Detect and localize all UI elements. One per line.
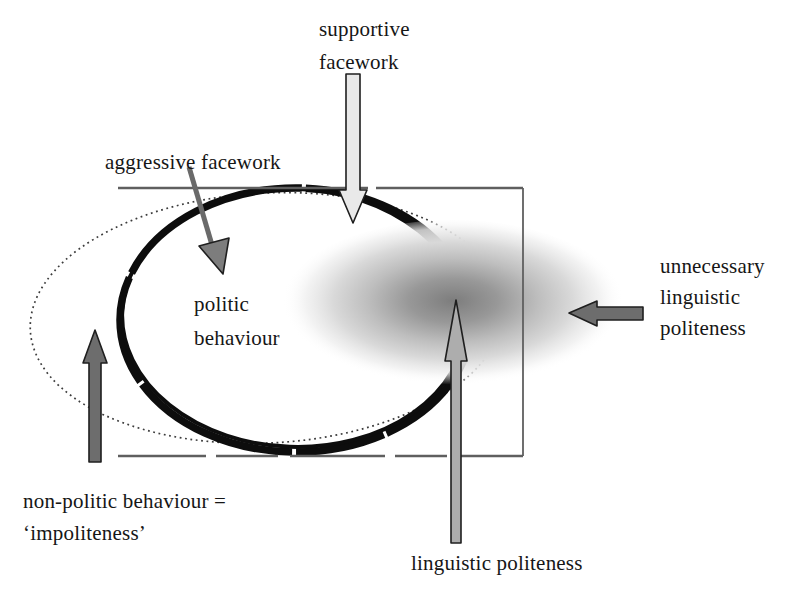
- non-politic-behaviour-arrow: [83, 330, 107, 462]
- supportive-facework-label: supportive facework: [319, 13, 410, 79]
- supportive-facework-arrow: [339, 74, 367, 223]
- non-politic-behaviour-label: non-politic behaviour = ‘impoliteness’: [23, 485, 226, 549]
- unnecessary-politeness-label: unnecessary linguistic politeness: [660, 251, 765, 344]
- linguistic-politeness-label: linguistic politeness: [411, 548, 583, 579]
- politeness-diagram: supportive facework aggressive facework …: [0, 0, 802, 598]
- aggressive-facework-label: aggressive facework: [105, 147, 281, 178]
- politic-behaviour-label: politic behaviour: [194, 287, 280, 355]
- aggressive-facework-arrowhead: [199, 238, 229, 274]
